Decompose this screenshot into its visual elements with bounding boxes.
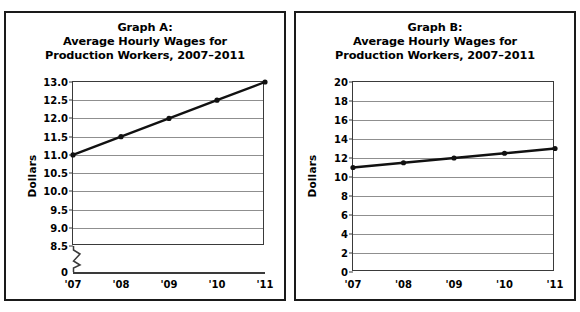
y-axis-tick-mark	[69, 118, 73, 119]
y-axis-tick-mark	[349, 196, 353, 197]
x-axis-tick-label: '07	[65, 279, 82, 290]
data-series	[73, 82, 265, 246]
x-axis-tick-label: '09	[161, 279, 178, 290]
y-axis-tick-mark	[69, 191, 73, 192]
y-axis-tick-mark	[349, 82, 353, 83]
y-axis-tick-mark	[69, 209, 73, 210]
y-axis-tick-label: 10.5	[43, 168, 68, 179]
x-axis-tick-label: '07	[345, 279, 362, 290]
y-axis-tick-mark	[349, 101, 353, 102]
y-axis-tick-mark	[349, 158, 353, 159]
gridline	[353, 253, 553, 254]
y-axis-tick-mark	[69, 136, 73, 137]
y-axis-tick-mark	[349, 120, 353, 121]
y-axis-tick-label: 4	[341, 229, 348, 240]
y-axis-tick-mark	[349, 253, 353, 254]
y-axis-tick-label: 12	[334, 153, 348, 164]
y-axis-tick-label: 13.0	[43, 77, 68, 88]
gridline	[73, 228, 263, 229]
y-axis-tick-label: 14	[334, 134, 348, 145]
y-axis-tick-label: 9.0	[50, 222, 68, 233]
y-axis-tick-mark	[69, 82, 73, 83]
gridline	[73, 118, 263, 119]
data-point-marker	[401, 160, 406, 165]
y-axis-tick-label: 12.0	[43, 113, 68, 124]
y-axis-tick-label: 9.5	[50, 204, 68, 215]
two-panel-figure: Graph A: Average Hourly Wages for Produc…	[0, 0, 580, 312]
axis-break-zigzag-icon	[72, 246, 86, 272]
y-axis-tick-label: 8.5	[50, 241, 68, 252]
gridline	[353, 158, 553, 159]
graph-b-panel: Graph B: Average Hourly Wages for Produc…	[294, 11, 576, 301]
y-axis-tick-mark	[349, 139, 353, 140]
y-axis-tick-label: 10	[334, 172, 348, 183]
y-axis-tick-mark	[69, 100, 73, 101]
graph-a-plot-wrap: Dollars 8.59.09.510.010.511.011.512.012.…	[6, 13, 284, 299]
x-axis-tick-label: '11	[547, 279, 564, 290]
gridline	[353, 139, 553, 140]
y-axis-zero-label: 0	[61, 267, 68, 278]
graph-b-plot-area: 02468101214161820'07'08'09'10'11	[352, 81, 554, 271]
y-axis-tick-label: 18	[334, 96, 348, 107]
y-axis-tick-label: 11.5	[43, 131, 68, 142]
graph-b-y-axis-label: Dollars	[306, 154, 318, 197]
y-axis-break	[72, 246, 86, 272]
y-axis-tick-label: 6	[341, 210, 348, 221]
graph-a-y-axis-label: Dollars	[26, 154, 38, 197]
gridline	[73, 173, 263, 174]
x-axis-tick-label: '08	[113, 279, 130, 290]
y-axis-tick-mark	[349, 234, 353, 235]
gridline	[353, 196, 553, 197]
y-axis-tick-label: 11.0	[43, 149, 68, 160]
gridline	[353, 177, 553, 178]
x-axis-tick-label: '08	[395, 279, 412, 290]
data-point-marker	[262, 79, 267, 84]
x-axis-tick-label: '09	[446, 279, 463, 290]
y-axis-tick-mark	[349, 272, 353, 273]
x-axis-tick-label: '10	[209, 279, 226, 290]
y-axis-tick-label: 12.5	[43, 95, 68, 106]
y-axis-tick-mark	[69, 154, 73, 155]
graph-b-plot-wrap: Dollars 02468101214161820'07'08'09'10'11	[296, 13, 574, 299]
y-axis-tick-label: 2	[341, 248, 348, 259]
gridline	[73, 137, 263, 138]
graph-a-plot-area: 8.59.09.510.010.511.011.512.012.513.0'07…	[72, 81, 264, 245]
y-axis-tick-mark	[349, 177, 353, 178]
data-point-marker	[350, 165, 355, 170]
gridline	[353, 234, 553, 235]
x-axis-baseline	[73, 272, 265, 274]
y-axis-tick-mark	[69, 246, 73, 247]
y-axis-tick-mark	[349, 215, 353, 216]
gridline	[353, 120, 553, 121]
x-axis-tick-label: '11	[257, 279, 274, 290]
y-axis-tick-label: 16	[334, 115, 348, 126]
gridline	[73, 210, 263, 211]
x-axis-tick-label: '10	[496, 279, 513, 290]
gridline	[353, 101, 553, 102]
y-axis-tick-label: 0	[341, 267, 348, 278]
gridline	[73, 100, 263, 101]
y-axis-tick-label: 10.0	[43, 186, 68, 197]
data-point-marker	[502, 151, 507, 156]
y-axis-tick-mark	[69, 227, 73, 228]
graph-a-panel: Graph A: Average Hourly Wages for Produc…	[4, 11, 286, 301]
data-point-marker	[552, 146, 557, 151]
y-axis-tick-label: 20	[334, 77, 348, 88]
y-axis-tick-label: 8	[341, 191, 348, 202]
gridline	[353, 215, 553, 216]
y-axis-tick-mark	[69, 173, 73, 174]
gridline	[73, 191, 263, 192]
gridline	[73, 155, 263, 156]
